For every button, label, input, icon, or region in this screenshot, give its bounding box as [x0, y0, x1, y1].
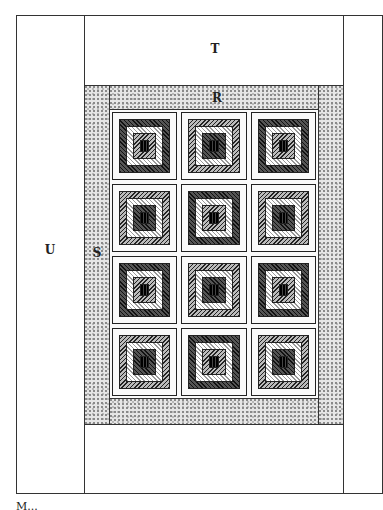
block-ring	[140, 356, 149, 368]
border-s-right	[318, 86, 343, 424]
label-t: T	[211, 42, 220, 56]
block-ring	[279, 140, 288, 152]
right-strip-panel	[343, 15, 383, 494]
quilt-block	[249, 182, 318, 254]
block-ring	[140, 140, 149, 152]
block-ring	[279, 356, 288, 368]
label-s: S	[93, 246, 102, 260]
block-ring	[209, 356, 218, 368]
quilt-block	[179, 254, 248, 326]
quilt-block	[249, 254, 318, 326]
block-ring	[209, 212, 218, 224]
quilt-block	[249, 326, 318, 398]
quilt-block	[110, 110, 179, 182]
border-r-bottom	[110, 398, 318, 424]
caption: M...	[16, 500, 38, 510]
quilt-block	[179, 326, 248, 398]
quilt-block	[110, 254, 179, 326]
block-ring	[279, 212, 288, 224]
block-ring	[279, 284, 288, 296]
block-ring	[209, 284, 218, 296]
bottom-panel	[84, 424, 344, 494]
label-u: U	[45, 243, 55, 257]
quilt-block	[110, 326, 179, 398]
block-ring	[140, 212, 149, 224]
quilt-block	[110, 182, 179, 254]
quilt-block	[179, 110, 248, 182]
label-r: R	[212, 91, 222, 105]
block-ring	[140, 284, 149, 296]
quilt-block	[249, 110, 318, 182]
block-ring	[209, 140, 218, 152]
quilt-block	[179, 182, 248, 254]
quilt-block-grid	[110, 110, 318, 398]
